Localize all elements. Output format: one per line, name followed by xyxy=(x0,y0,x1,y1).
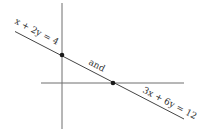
graph-line xyxy=(15,32,184,120)
diagram-canvas: x + 2y = 4 and 3x + 6y = 12 xyxy=(0,0,207,136)
equation-label-bottom: 3x + 6y = 12 xyxy=(141,85,199,121)
y-intercept-point xyxy=(60,53,65,58)
connector-label: and xyxy=(87,57,107,74)
x-intercept-point xyxy=(111,81,116,86)
